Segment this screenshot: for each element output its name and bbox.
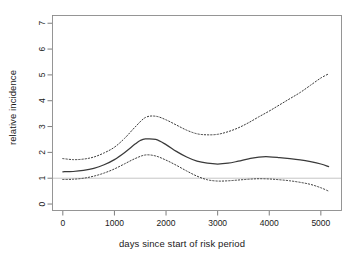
relative-incidence-plot: 01000200030004000500001234567 — [0, 0, 364, 261]
y-axis-label-container: relative incidence — [0, 0, 26, 215]
y-tick-label-4: 4 — [38, 98, 48, 103]
series-line-0 — [63, 139, 329, 172]
x-axis-label: days since start of risk period — [0, 238, 364, 249]
y-tick-label-1: 1 — [38, 176, 48, 181]
x-tick-label-3: 3000 — [208, 218, 227, 228]
series-line-1 — [63, 74, 329, 160]
y-tick-label-7: 7 — [38, 21, 48, 26]
x-tick-label-1: 1000 — [105, 218, 124, 228]
x-tick-label-5: 5000 — [311, 218, 330, 228]
y-tick-label-2: 2 — [38, 150, 48, 155]
y-tick-label-3: 3 — [38, 124, 48, 129]
plot-frame — [53, 16, 342, 211]
y-tick-label-0: 0 — [38, 201, 48, 206]
y-tick-label-5: 5 — [38, 72, 48, 77]
x-tick-label-2: 2000 — [157, 218, 176, 228]
x-tick-label-0: 0 — [60, 218, 65, 228]
y-axis-label: relative incidence — [8, 70, 19, 145]
x-tick-label-4: 4000 — [260, 218, 279, 228]
y-tick-label-6: 6 — [38, 46, 48, 51]
chart-figure: 01000200030004000500001234567 relative i… — [0, 0, 364, 261]
